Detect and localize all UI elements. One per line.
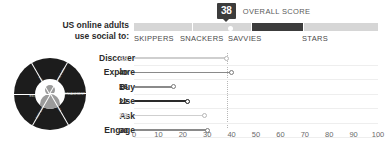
x-tick-0: 0: [132, 130, 136, 139]
x-tick-90: 90: [349, 130, 357, 139]
cohort-label-snackers: SNACKERS: [180, 34, 224, 43]
cohort-segment-stars[interactable]: [304, 23, 378, 31]
gridline: [134, 123, 378, 124]
lollipop-line-buy: [134, 86, 173, 88]
row-value-discover: 38: [113, 54, 128, 63]
cohort-marker-dot: [228, 26, 233, 31]
x-tick-40: 40: [227, 130, 235, 139]
lollipop-line-ask: [134, 115, 205, 117]
cohort-segment-skippers[interactable]: [134, 23, 192, 31]
x-tick-10: 10: [154, 130, 162, 139]
gridline: [134, 65, 378, 66]
row-value-explore: 40: [113, 68, 128, 77]
x-tick-80: 80: [325, 130, 333, 139]
cohort-segment-snackers[interactable]: [193, 23, 251, 31]
lollipop-dot-explore[interactable]: [229, 70, 234, 75]
x-tick-100: 100: [372, 130, 385, 139]
lollipop-dot-discover[interactable]: [224, 56, 229, 61]
cohort-segment-bar: [134, 23, 378, 31]
row-value-use: 22: [113, 97, 128, 106]
lollipop-line-discover: [134, 57, 227, 59]
x-axis: 0102030405060708090100: [134, 130, 378, 142]
page-title: US online adults use social to:: [24, 20, 129, 42]
cohort-label-skippers: SKIPPERS: [134, 34, 174, 43]
x-tick-50: 50: [252, 130, 260, 139]
overall-score-indicator: 38 OVERALL SCORE: [217, 3, 310, 19]
row-value-buy: 16: [113, 82, 128, 91]
lollipop-dot-buy[interactable]: [171, 84, 176, 89]
page-title-line-2: use social to:: [24, 31, 129, 42]
page-title-line-1: US online adults: [24, 20, 129, 31]
cohort-segment-savvies[interactable]: [252, 23, 303, 31]
x-tick-60: 60: [276, 130, 284, 139]
lollipop-dot-use[interactable]: [185, 99, 190, 104]
gridline: [134, 94, 378, 95]
x-tick-30: 30: [203, 130, 211, 139]
lollipop-line-explore: [134, 72, 232, 74]
row-value-ask: 29: [113, 111, 128, 120]
behavior-lollipop-chart: [134, 53, 378, 128]
x-tick-20: 20: [179, 130, 187, 139]
row-value-engage: 30: [113, 126, 128, 135]
lollipop-dot-ask[interactable]: [202, 113, 207, 118]
cohort-segment-labels: SKIPPERSSNACKERSSAVVIESSTARS: [134, 34, 378, 45]
x-tick-70: 70: [301, 130, 309, 139]
lollipop-line-use: [134, 100, 188, 102]
donut-wedge-label-use: USE: [29, 93, 35, 96]
gridline: [134, 79, 378, 80]
gridline: [134, 108, 378, 109]
overall-score-badge: 38: [217, 3, 236, 19]
cohort-label-stars: STARS: [302, 34, 328, 43]
cohort-label-savvies: SAVVIES: [228, 34, 262, 43]
donut-wedge-label-engagement: ENGAGEMENT: [65, 93, 85, 96]
overall-score-caption: OVERALL SCORE: [243, 7, 311, 16]
